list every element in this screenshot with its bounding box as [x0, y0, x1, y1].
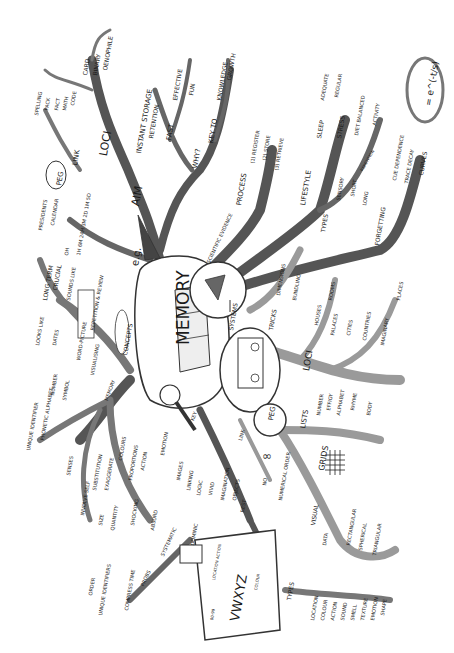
svg-text:∞: ∞ [262, 449, 272, 463]
label-aim: AIM [130, 185, 144, 207]
label-boxes [46, 161, 129, 354]
systems-bubble [220, 328, 280, 412]
dominic-box [180, 530, 280, 640]
infinity-icon: ∞ [262, 449, 272, 463]
label-memory: MEMORY [175, 270, 192, 345]
